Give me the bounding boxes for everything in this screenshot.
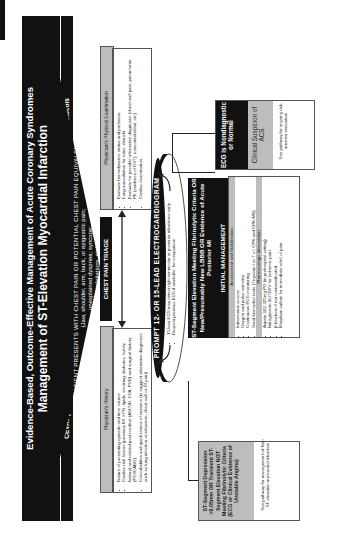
triage-title: CHEST PAIN TRIAGE [100,217,112,321]
title-line-2: Management of ST-Elevation Myocardial In… [36,16,50,521]
chest-pain-triage: Physician's History CHEST PAIN TRIAGE Ph… [100,48,112,493]
pharm-item: Morphine sulfate for immediate relief of… [278,177,283,328]
patient-presentation: PATIENT PRESENTS WITH CHEST PAIN OR POTE… [60,78,100,458]
exam-item: Cardiac examination [138,53,143,199]
page-title: Evidence-Based, Outcome-Effective Manage… [22,16,60,521]
st-depression-title: ST-Segment Depression >0.05mm OR Transie… [199,442,254,520]
presentation-line-3: unexplained dyspnea; syncope; [87,78,94,458]
ecg-normal-note: See pathway for ongoing risk-oriented ev… [270,93,330,169]
connector-line [172,172,215,173]
curved-arrow-left-icon [158,343,172,363]
title-line-1: Evidence-Based, Outcome-Effective Manage… [24,16,35,521]
ecg-normal-box: ECG is Nondiagnostic or Normal Clinical … [215,100,315,170]
curved-arrow-right-icon [158,173,172,193]
connector-line [172,133,215,134]
stemi-box: ST-Segment Elevation Meeting Fibrinolyti… [188,178,298,338]
stemi-title: ST-Segment Elevation Meeting Fibrinolyti… [188,178,218,338]
connector-line [188,381,189,481]
connector-line [172,133,173,173]
st-depression-note: See pathway for management of Non ST-ele… [252,430,315,520]
initial-management-title: INITIAL MANAGEMENT [218,178,228,338]
initial-management-box: Assessment and Stabilization Intravenous… [228,176,300,338]
ecg-item: Request previous ECG if available, for c… [171,203,176,335]
corner-bar [0,0,5,40]
history-item: Comorbidities and quick review of system… [138,333,149,482]
history-box: Nature of presenting episode and time co… [112,328,152,493]
exam-box: Evaluate hemodynamic status and perfusio… [112,48,152,210]
exam-item: Evaluate for possible alternative diagno… [127,53,138,199]
connector-line [188,480,198,481]
flowchart-page: Evidence-Based, Outcome-Effective Manage… [0,0,339,538]
st-depression-box: ST-Segment Depression >0.05mm OR Transie… [198,441,300,521]
presentation-line-1: PATIENT PRESENTS WITH CHEST PAIN OR POTE… [73,78,80,458]
presentation-line-2: (Jaw, shoulder, arm, back, or epigastric… [80,78,87,458]
history-item: Cardiac risk factors (previous MI, HTN, … [121,333,137,482]
ecg-normal-title: ECG is Nondiagnostic or Normal [216,101,252,169]
double-arrow-icon [116,210,128,328]
